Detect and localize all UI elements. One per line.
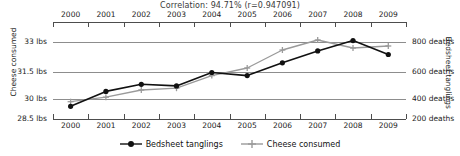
x-tick-label-bottom: 2001	[89, 121, 123, 130]
left-tick-label: 31.5 lbs	[17, 67, 47, 76]
data-point-marker	[209, 70, 214, 75]
data-point-marker	[279, 47, 285, 53]
x-tick-label-top: 2000	[54, 10, 88, 19]
left-tick-label: 28.5 lbs	[17, 114, 47, 123]
x-tick-label-bottom: 2009	[371, 121, 405, 130]
series-bedsheet-tanglings	[68, 38, 391, 109]
right-tick-2: 400 deaths	[412, 94, 460, 104]
series-cheese-consumed	[68, 37, 392, 105]
x-tick-label-bottom: 2004	[195, 121, 229, 130]
legend-label: Cheese consumed	[267, 140, 341, 149]
data-series-layer	[53, 22, 406, 122]
x-tick-label-top: 2004	[195, 10, 229, 19]
left-tick-0: 33 lbs	[0, 37, 47, 47]
legend-label: Bedsheet tanglings	[146, 140, 223, 149]
data-point-marker	[245, 73, 250, 78]
legend-marker-circle-icon	[120, 139, 142, 149]
data-point-marker	[350, 38, 355, 43]
chart-legend: Bedsheet tanglings Cheese consumed	[0, 139, 460, 149]
left-tick-label: 30 lbs	[24, 94, 47, 103]
legend-marker-plus-icon	[241, 139, 263, 149]
data-point-marker	[386, 52, 391, 57]
x-tick-label-top: 2001	[89, 10, 123, 19]
data-point-marker	[280, 60, 285, 65]
x-tick-label-bottom: 2005	[230, 121, 264, 130]
legend-item-cheese-consumed[interactable]: Cheese consumed	[241, 139, 341, 149]
x-tick-label-top: 2009	[371, 10, 405, 19]
data-point-marker	[68, 104, 73, 109]
left-tick-1: 31.5 lbs	[0, 67, 47, 77]
data-point-marker	[138, 87, 144, 93]
left-tick-2: 30 lbs	[0, 94, 47, 104]
x-tick-label-bottom: 2006	[265, 121, 299, 130]
right-tick-label: 800 deaths	[412, 37, 454, 46]
right-tick-0: 800 deaths	[412, 37, 460, 47]
x-tick-label-bottom: 2000	[54, 121, 88, 130]
data-point-marker	[385, 43, 391, 49]
x-tick-label-top: 2003	[160, 10, 194, 19]
series-line	[71, 41, 389, 107]
x-tick-label-bottom: 2008	[336, 121, 370, 130]
legend-item-bedsheet-tanglings[interactable]: Bedsheet tanglings	[120, 139, 223, 149]
chart-title: Correlation: 94.71% (r=0.947091)	[0, 1, 460, 10]
x-tick-label-top: 2008	[336, 10, 370, 19]
plot-area: 2000200120022003200420052006200720082009…	[53, 22, 406, 122]
data-point-marker	[315, 48, 320, 53]
x-tick-label-top: 2002	[124, 10, 158, 19]
x-tick-label-top: 2007	[301, 10, 335, 19]
right-tick-label: 400 deaths	[412, 94, 454, 103]
left-tick-label: 33 lbs	[24, 37, 47, 46]
right-tick-1: 600 deaths	[412, 67, 460, 77]
bottom-axis-tick	[406, 114, 407, 119]
data-point-marker	[139, 82, 144, 87]
data-point-marker	[315, 37, 321, 43]
chart-figure: Correlation: 94.71% (r=0.947091) Cheese …	[0, 0, 460, 156]
right-tick-label: 200 deaths	[412, 114, 454, 123]
left-tick-3: 28.5 lbs	[0, 114, 47, 124]
x-tick-label-bottom: 2007	[301, 121, 335, 130]
x-tick-label-top: 2006	[265, 10, 299, 19]
right-tick-3: 200 deaths	[412, 114, 460, 124]
top-axis-tick	[406, 22, 407, 27]
x-tick-label-bottom: 2003	[160, 121, 194, 130]
x-tick-label-top: 2005	[230, 10, 264, 19]
data-point-marker	[174, 83, 179, 88]
data-point-marker	[103, 89, 108, 94]
right-tick-label: 600 deaths	[412, 67, 454, 76]
series-line	[71, 40, 389, 102]
x-tick-label-bottom: 2002	[124, 121, 158, 130]
data-point-marker	[244, 65, 250, 71]
data-point-marker	[350, 45, 356, 51]
data-point-marker	[103, 94, 109, 100]
